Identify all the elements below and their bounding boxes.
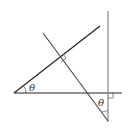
right-angle-marker-lower (108, 93, 113, 98)
rising-line (14, 26, 100, 93)
angle-arc-left (24, 86, 27, 93)
theta-label-left: θ (29, 82, 35, 93)
theta-label-right: θ (98, 97, 104, 108)
angle-arc-right (102, 110, 109, 112)
geometry-diagram: θ θ (0, 0, 132, 129)
